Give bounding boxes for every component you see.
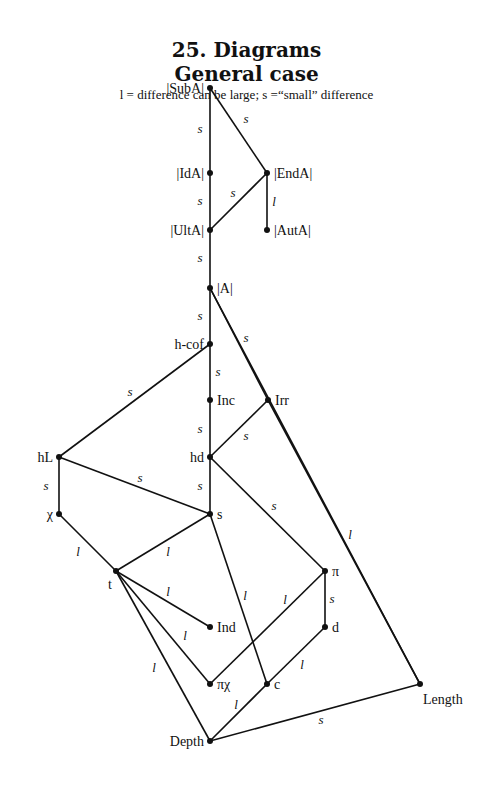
edge-label: l (283, 592, 287, 607)
node-dot-UltA (207, 227, 213, 233)
edges-layer (59, 88, 420, 741)
edge-label: s (43, 478, 48, 493)
edge-chi-t (59, 514, 116, 571)
node-dot-c (264, 681, 270, 687)
node-label-SubA: |SubA| (166, 81, 204, 96)
edge-hL-s (59, 457, 210, 514)
node-dot-hd (207, 454, 213, 460)
node-label-c: c (274, 677, 280, 692)
edge-labels-layer: sssslssssssslssssllllllsllls (43, 111, 352, 727)
edge-label: s (197, 478, 202, 493)
node-dot-AutA (264, 227, 270, 233)
edge-label: s (243, 428, 248, 443)
edge-label: s (127, 384, 132, 399)
node-dot-Ind (207, 624, 213, 630)
node-dot-Length (417, 681, 423, 687)
edge-label: s (197, 250, 202, 265)
node-label-Length: Length (423, 692, 463, 707)
edge-label: l (300, 657, 304, 672)
node-label-Ind: Ind (217, 620, 236, 635)
node-dot-A (207, 285, 213, 291)
edge-Depth-Length (210, 684, 420, 741)
edge-Irr-hd (210, 400, 268, 457)
node-label-Depth: Depth (170, 734, 204, 749)
node-dot-hL (56, 454, 62, 460)
edge-label: l (166, 544, 170, 559)
node-dot-pi (322, 568, 328, 574)
node-label-IdA: |IdA| (177, 166, 204, 181)
edge-label: l (152, 660, 156, 675)
edge-label: l (243, 588, 247, 603)
node-dot-chi (56, 511, 62, 517)
edge-label: s (197, 421, 202, 436)
edge-s-c (210, 514, 267, 684)
node-label-chi: χ (46, 507, 54, 522)
edge-label: l (183, 628, 187, 643)
node-label-AutA: |AutA| (274, 223, 311, 238)
node-dot-d (322, 624, 328, 630)
node-label-hL: hL (37, 450, 53, 465)
node-label-hcof: h-cof (174, 337, 204, 352)
edge-label: s (318, 712, 323, 727)
edge-d-c (267, 627, 325, 684)
node-label-d: d (332, 620, 339, 635)
edge-label: s (243, 111, 248, 126)
node-label-s: s (217, 507, 222, 522)
node-label-pi: π (332, 564, 339, 579)
node-label-EndA: |EndA| (274, 166, 312, 181)
edge-t-Depth (116, 571, 210, 741)
node-dot-SubA (207, 85, 213, 91)
node-dot-Irr (265, 397, 271, 403)
nodes-layer: |SubA||IdA||EndA||UltA||AutA||A|h-cofInc… (37, 81, 462, 749)
node-dot-Depth (207, 738, 213, 744)
edge-label: l (234, 697, 238, 712)
edge-label: s (329, 591, 334, 606)
edge-label: s (197, 308, 202, 323)
edge-A-Irr (210, 288, 268, 400)
node-dot-EndA (264, 170, 270, 176)
node-label-Irr: Irr (275, 393, 289, 408)
edge-label: s (197, 193, 202, 208)
node-dot-IdA (207, 170, 213, 176)
node-label-UltA: |UltA| (170, 223, 204, 238)
node-dot-s (207, 511, 213, 517)
edge-t-pichi (116, 571, 210, 684)
node-dot-hcof (207, 341, 213, 347)
edge-label: s (271, 498, 276, 513)
node-label-Inc: Inc (217, 393, 235, 408)
node-label-A: |A| (217, 281, 233, 296)
node-dot-Inc (207, 397, 213, 403)
node-label-t: t (108, 577, 112, 592)
edge-label: s (230, 185, 235, 200)
node-dot-pichi (207, 681, 213, 687)
edge-label: l (348, 527, 352, 542)
edge-s-t (116, 514, 210, 571)
node-dot-t (113, 568, 119, 574)
node-label-pichi: πχ (217, 677, 231, 692)
edge-hcof-hL (59, 344, 210, 457)
edge-label: s (243, 330, 248, 345)
edge-label: l (272, 194, 276, 209)
edge-label: s (197, 121, 202, 136)
edge-label: l (166, 584, 170, 599)
size-relationship-diagram: sssslssssssslssssllllllsllls |SubA||IdA|… (0, 0, 493, 787)
edge-label: s (137, 470, 142, 485)
edge-SubA-EndA (210, 88, 267, 173)
edge-EndA-UltA (210, 173, 267, 230)
edge-Irr-Length (268, 400, 420, 684)
edge-label: s (215, 364, 220, 379)
edge-label: l (76, 544, 80, 559)
node-label-hd: hd (190, 450, 204, 465)
edge-t-Ind (116, 571, 210, 627)
